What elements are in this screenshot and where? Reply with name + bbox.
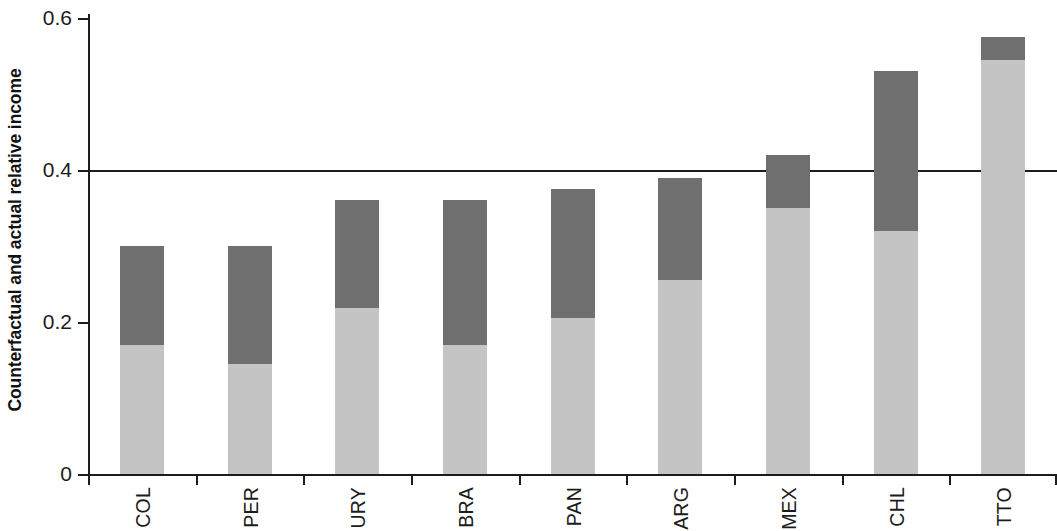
x-axis-tick-mark (734, 474, 736, 485)
bar-pan (551, 189, 595, 474)
bar-tto (981, 37, 1025, 474)
bar-bra (443, 200, 487, 474)
x-axis-label-pan: PAN (563, 487, 586, 526)
bar-col (120, 246, 164, 474)
x-axis-label-chl: CHL (886, 487, 909, 527)
y-axis-tick-mark (78, 18, 88, 20)
y-axis-tick-mark (78, 474, 88, 476)
x-axis-tick-mark (949, 474, 951, 485)
bar-ury (335, 200, 379, 474)
bar-segment-actual (874, 231, 918, 474)
x-axis-line (88, 474, 1057, 476)
y-axis-tick-label: 0.4 (43, 158, 72, 182)
y-axis-tick-label: 0 (60, 462, 72, 486)
bar-segment-counterfactual (874, 71, 918, 231)
bar-segment-actual (766, 208, 810, 474)
x-axis-label-arg: ARG (670, 487, 693, 530)
x-axis-tick-mark (303, 474, 305, 485)
x-axis-label-col: COL (132, 487, 155, 528)
y-axis-tick-mark (78, 322, 88, 324)
bar-segment-actual (335, 308, 379, 474)
y-axis-tick-label: 0.6 (43, 6, 72, 30)
y-axis-title-container: Counterfactual and actual relative incom… (0, 0, 30, 480)
y-axis-line (88, 14, 90, 476)
bar-segment-counterfactual (443, 200, 487, 344)
bar-segment-actual (443, 345, 487, 474)
plot-area: 00.20.40.6 (88, 14, 1057, 476)
bar-segment-actual (120, 345, 164, 474)
x-axis-tick-mark (88, 474, 90, 485)
x-axis-tick-mark (411, 474, 413, 485)
bar-segment-actual (981, 60, 1025, 474)
bar-segment-counterfactual (766, 155, 810, 208)
bar-segment-actual (228, 364, 272, 474)
x-axis-tick-mark (519, 474, 521, 485)
bar-segment-counterfactual (981, 37, 1025, 60)
x-axis-label-tto: TTO (993, 487, 1016, 526)
y-axis-tick-label: 0.2 (43, 310, 72, 334)
bar-segment-counterfactual (120, 246, 164, 345)
bar-chl (874, 71, 918, 474)
x-axis-label-mex: MEX (778, 487, 801, 530)
bar-segment-actual (658, 280, 702, 474)
x-axis-tick-mark (842, 474, 844, 485)
bar-segment-counterfactual (335, 200, 379, 308)
y-axis-title: Counterfactual and actual relative incom… (5, 68, 26, 411)
bar-segment-counterfactual (551, 189, 595, 318)
x-axis-label-bra: BRA (455, 487, 478, 528)
bar-per (228, 246, 272, 474)
bar-mex (766, 155, 810, 474)
y-axis-tick-mark (78, 170, 88, 172)
x-axis-label-ury: URY (347, 487, 370, 528)
x-axis-label-per: PER (240, 487, 263, 528)
bar-arg (658, 178, 702, 474)
bar-segment-counterfactual (228, 246, 272, 364)
bar-segment-actual (551, 318, 595, 474)
bar-segment-counterfactual (658, 178, 702, 281)
x-axis-tick-mark (626, 474, 628, 485)
x-axis-tick-mark (196, 474, 198, 485)
chart-figure: Counterfactual and actual relative incom… (0, 0, 1057, 531)
